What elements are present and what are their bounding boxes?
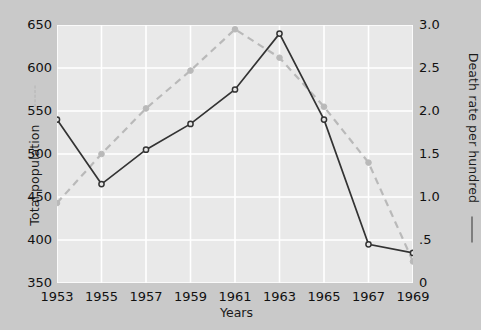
right-axis-tick-label: 2.0 — [419, 103, 453, 118]
data-point — [277, 31, 282, 36]
x-axis-tick-label: 1953 — [34, 289, 80, 304]
data-point — [366, 160, 372, 166]
data-point — [232, 27, 238, 33]
x-axis-tick-label: 1967 — [346, 289, 392, 304]
right-axis-tick-label: 0 — [419, 275, 453, 290]
data-point — [143, 147, 148, 152]
data-point — [232, 87, 237, 92]
left-axis-tick-label: 500 — [18, 146, 52, 161]
right-axis-tick-label: 2.5 — [419, 60, 453, 75]
data-point — [410, 250, 413, 255]
left-axis-tick-label: 400 — [18, 232, 52, 247]
right-axis-tick-label: .5 — [419, 232, 453, 247]
data-point — [321, 117, 326, 122]
x-axis-tick-label: 1965 — [301, 289, 347, 304]
right-axis-tick-label: 1.0 — [419, 189, 453, 204]
left-axis-tick-label: 450 — [18, 189, 52, 204]
data-point — [321, 104, 327, 110]
solid-line-legend-icon — [472, 216, 473, 242]
x-axis-tick-label: 1969 — [390, 289, 436, 304]
data-point — [188, 68, 194, 74]
plot-area — [57, 25, 413, 283]
left-axis-tick-label: 350 — [18, 275, 52, 290]
data-point — [99, 182, 104, 187]
data-point — [277, 55, 283, 61]
right-axis-tick-label: 1.5 — [419, 146, 453, 161]
left-axis-title-text: Total population — [27, 124, 42, 225]
data-point — [57, 200, 60, 206]
data-point — [143, 106, 149, 112]
data-point — [188, 121, 193, 126]
x-axis-tick-label: 1957 — [123, 289, 169, 304]
x-axis-tick-label: 1963 — [257, 289, 303, 304]
x-axis-tick-label: 1961 — [212, 289, 258, 304]
right-axis-tick-label: 3.0 — [419, 17, 453, 32]
right-axis-title: Death rate per hundred — [466, 48, 481, 248]
x-axis-tick-label: 1955 — [79, 289, 125, 304]
x-axis-title: Years — [0, 305, 473, 320]
chart-svg — [57, 25, 413, 283]
data-point — [57, 117, 60, 122]
data-point — [99, 151, 105, 157]
left-axis-tick-label: 650 — [18, 17, 52, 32]
right-axis-title-text: Death rate per hundred — [466, 53, 481, 203]
left-axis-tick-label: 550 — [18, 103, 52, 118]
left-axis-tick-label: 600 — [18, 60, 52, 75]
data-point — [366, 242, 371, 247]
x-axis-tick-label: 1959 — [168, 289, 214, 304]
data-point — [410, 259, 413, 265]
